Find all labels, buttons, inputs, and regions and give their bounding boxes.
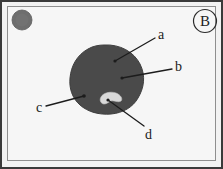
annotation-label-d: d — [145, 128, 152, 142]
annotation-label-c: c — [36, 101, 42, 115]
figure-graphics-layer — [0, 0, 223, 169]
annotation-label-b: b — [175, 60, 182, 74]
gray-disc-marker — [12, 10, 32, 30]
figure-panel: B a b c d — [0, 0, 223, 169]
dark-stained-mass — [70, 45, 144, 114]
annotation-label-a: a — [158, 28, 164, 42]
panel-letter: B — [200, 13, 210, 30]
